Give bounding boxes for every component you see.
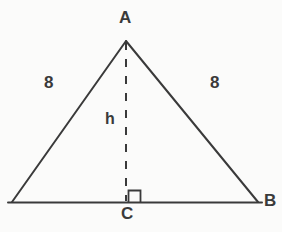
vertex-label-a: A <box>119 9 131 26</box>
right-side-line <box>126 41 258 202</box>
triangle-diagram-canvas <box>0 0 282 232</box>
right-side-length-label: 8 <box>210 74 219 91</box>
geometry-figure: A B C 8 8 h <box>0 0 282 232</box>
height-label: h <box>105 111 115 127</box>
vertex-label-c: C <box>121 205 133 222</box>
left-side-length-label: 8 <box>44 74 53 91</box>
right-angle-icon <box>129 191 141 203</box>
vertex-label-b: B <box>264 192 276 209</box>
